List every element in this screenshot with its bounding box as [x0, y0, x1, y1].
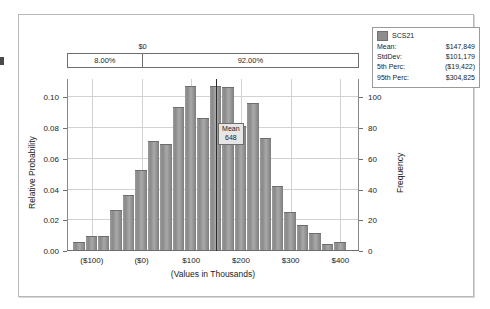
x-axis-tick-label: $400	[331, 256, 349, 265]
y-axis-right-tick	[359, 128, 363, 129]
histogram-bar	[222, 87, 233, 251]
y-axis-left-tick	[63, 251, 67, 252]
legend-stat-key: StdDev:	[377, 52, 402, 62]
legend-stat-key: 95th Perc:	[377, 73, 409, 83]
y-axis-right-tick	[359, 97, 363, 98]
y-axis-left-tick-label: 0.04	[43, 185, 59, 194]
y-axis-left-tick	[63, 159, 67, 160]
legend-series: SCS21	[377, 31, 475, 41]
x-axis-tick-label: ($0)	[134, 256, 148, 265]
plot-baseline	[67, 250, 359, 251]
y-axis-left-tick-label: 0.02	[43, 216, 59, 225]
x-axis-tick-label: $300	[282, 256, 300, 265]
histogram-bar	[123, 195, 134, 251]
x-axis-title: (Values in Thousands)	[171, 269, 255, 279]
histogram-bar	[309, 233, 320, 251]
legend-stat-row: 95th Perc: $304,825	[377, 73, 475, 83]
histogram-bar	[110, 210, 121, 251]
y-axis-right-tick-label: 80	[368, 124, 377, 133]
legend-stat-value: ($19,422)	[445, 62, 475, 72]
mean-annotation-label: Mean	[222, 125, 240, 134]
histogram-bar	[272, 186, 283, 252]
y-axis-left-title: Relative Probability	[27, 136, 37, 209]
histogram-bar	[135, 170, 146, 251]
certainty-right-label: 92.00%	[238, 56, 263, 65]
histogram-bar	[284, 212, 295, 251]
legend-series-label: SCS21	[392, 31, 414, 41]
legend-stat-value: $147,849	[446, 42, 475, 52]
mean-annotation: Mean 648	[218, 123, 244, 145]
y-axis-right-tick	[359, 220, 363, 221]
histogram-bars	[67, 79, 359, 251]
histogram-bar	[173, 107, 184, 251]
histogram-bar	[160, 144, 171, 251]
mean-line	[216, 79, 217, 251]
histogram-bar	[197, 118, 208, 251]
x-axis-tick-label: ($100)	[80, 256, 103, 265]
histogram-bar	[185, 86, 196, 251]
y-axis-right-tick-label: 100	[368, 93, 381, 102]
certainty-band[interactable]: 8.00% 92.00% $0	[67, 53, 359, 68]
x-axis-tick-label: $100	[182, 256, 200, 265]
y-axis-right-tick-label: 60	[368, 154, 377, 163]
legend-stat-value: $101,179	[446, 52, 475, 62]
histogram-bar	[247, 103, 258, 251]
histogram-bar	[148, 141, 159, 251]
zero-marker-label: $0	[138, 42, 146, 51]
legend-swatch-icon	[377, 31, 388, 41]
legend-stat-key: Mean:	[377, 42, 396, 52]
y-axis-left-tick-label: 0.08	[43, 124, 59, 133]
histogram-bar	[260, 138, 271, 251]
histogram-bar	[98, 236, 109, 251]
legend-stat-key: 5th Perc:	[377, 62, 405, 72]
y-axis-left-tick	[63, 220, 67, 221]
certainty-left-segment[interactable]: 8.00%	[68, 54, 143, 67]
y-axis-right-tick-label: 40	[368, 185, 377, 194]
edge-artifact	[0, 57, 4, 65]
legend-stat-row: StdDev: $101,179	[377, 52, 475, 62]
histogram-plot: 8.00% 92.00% $0 Mean 648 0.000.020.040.0…	[67, 53, 359, 251]
legend-stat-row: Mean: $147,849	[377, 42, 475, 52]
y-axis-right-tick-label: 20	[368, 216, 377, 225]
y-axis-left-tick-label: 0.00	[43, 247, 59, 256]
histogram-bar	[86, 236, 97, 251]
y-axis-right-tick	[359, 251, 363, 252]
x-axis-tick-label: $200	[232, 256, 250, 265]
y-axis-right-title: Frequency	[395, 153, 405, 193]
y-axis-left-tick	[63, 128, 67, 129]
y-axis-left-tick-label: 0.06	[43, 154, 59, 163]
certainty-right-segment[interactable]: 92.00%	[143, 54, 358, 67]
certainty-left-label: 8.00%	[94, 56, 115, 65]
histogram-bar	[297, 225, 308, 251]
mean-annotation-value: 648	[222, 134, 240, 143]
y-axis-right-tick-label: 0	[368, 247, 372, 256]
legend-stat-row: 5th Perc: ($19,422)	[377, 62, 475, 72]
chart-card: SCS21 Mean: $147,849 StdDev: $101,179 5t…	[18, 14, 474, 297]
y-axis-left-tick-label: 0.10	[43, 93, 59, 102]
y-axis-left-tick	[63, 97, 67, 98]
y-axis-right-tick	[359, 190, 363, 191]
y-axis-left-tick	[63, 190, 67, 191]
y-axis-right-tick	[359, 159, 363, 160]
legend-stat-value: $304,825	[446, 73, 475, 83]
legend-box: SCS21 Mean: $147,849 StdDev: $101,179 5t…	[372, 27, 480, 88]
